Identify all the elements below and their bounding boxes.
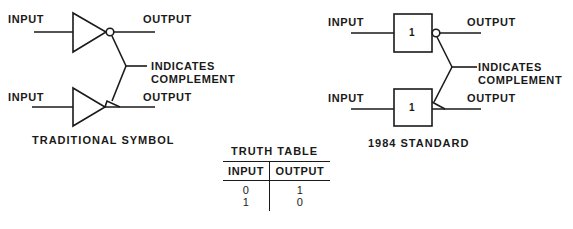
standard-inverter-bottom: [351, 89, 481, 126]
truth-table-cell: 0: [269, 196, 330, 211]
left-annotation-line1: INDICATES: [151, 60, 215, 72]
right-top-input-label: INPUT: [328, 16, 364, 28]
left-bottom-input-label: INPUT: [8, 91, 44, 103]
right-bottom-input-label: INPUT: [328, 92, 364, 104]
left-annotation-line2: COMPLEMENT: [151, 73, 235, 85]
right-annotation-line2: COMPLEMENT: [478, 74, 562, 86]
right-bottom-output-label: OUTPUT: [467, 92, 516, 104]
truth-table-row: 1 0: [223, 196, 330, 211]
left-caption: TRADITIONAL SYMBOL: [32, 134, 174, 146]
left-bottom-output-label: OUTPUT: [143, 91, 192, 103]
left-top-input-label: INPUT: [8, 13, 44, 25]
standard-inverter-top: [351, 14, 481, 52]
left-top-output-label: OUTPUT: [143, 13, 192, 25]
truth-table-cell: 0: [223, 181, 269, 197]
truth-table-header-output: OUTPUT: [269, 162, 330, 181]
right-top-box-label: 1: [409, 27, 415, 38]
right-caption: 1984 STANDARD: [368, 137, 469, 149]
truth-table-cell: 1: [269, 181, 330, 197]
truth-table-cell: 1: [223, 196, 269, 211]
truth-table: INPUT OUTPUT 0 1 1 0: [223, 161, 330, 211]
right-top-output-label: OUTPUT: [467, 16, 516, 28]
truth-table-title: TRUTH TABLE: [231, 145, 318, 157]
truth-table-header-input: INPUT: [223, 162, 269, 181]
right-annotation-line1: INDICATES: [478, 61, 542, 73]
traditional-inverter-top: [34, 13, 155, 52]
truth-table-row: 0 1: [223, 181, 330, 197]
right-bottom-box-label: 1: [409, 102, 415, 113]
left-complement-pointer: [112, 36, 147, 101]
traditional-inverter-bottom: [32, 88, 155, 126]
